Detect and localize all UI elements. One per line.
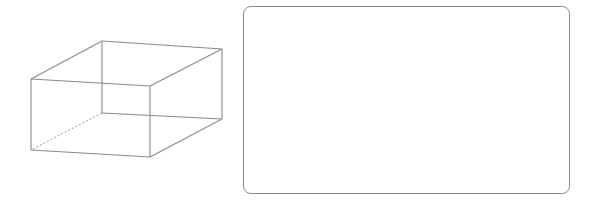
edge-bottom-front-right-to-bottom-front-left — [31, 150, 150, 157]
edge-bottom-back-right-to-bottom-front-right — [150, 119, 222, 157]
edge-bottom-back-left-to-bottom-back-right — [102, 113, 222, 119]
edge-top-front-right-to-top-front-left — [31, 79, 150, 86]
hidden-edge-bottom-back-left-to-bottom-front-left — [31, 113, 102, 150]
edge-top-front-left-to-top-back-left — [31, 41, 102, 79]
answer-box[interactable] — [243, 6, 570, 194]
edge-top-back-left-to-top-back-right — [102, 41, 222, 49]
cuboid-diagram — [0, 0, 240, 207]
edge-top-back-right-to-top-front-right — [150, 49, 222, 86]
